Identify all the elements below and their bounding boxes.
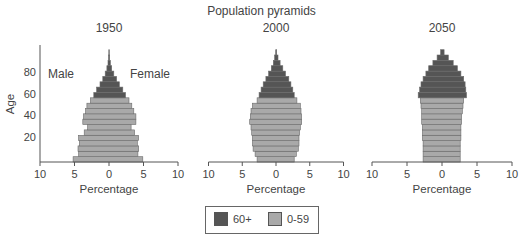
pyramid-bar-40-44 <box>84 114 136 119</box>
pyramid-bar-25-29 <box>422 130 461 135</box>
pyramid-bar-85-89 <box>271 66 283 71</box>
x-axis-label: Percentage <box>413 183 472 195</box>
y-tick-label: 60 <box>24 88 36 100</box>
pyramid-bar-50-54 <box>252 103 300 108</box>
pyramid-bar-15-19 <box>79 141 137 146</box>
x-axis-label: Percentage <box>80 183 139 195</box>
pyramid-bar-45-49 <box>86 109 134 114</box>
pyramid-bar-80-84 <box>269 71 286 76</box>
pyramid-bar-30-34 <box>422 125 461 130</box>
pyramid-bar-20-24 <box>252 135 299 140</box>
pyramid-bar-90-94 <box>273 60 280 65</box>
pyramid-bar-60-64 <box>94 93 126 98</box>
pyramid-bar-5-9 <box>255 151 296 156</box>
x-tick-label: 5 <box>474 168 480 180</box>
pyramid-bar-5-9 <box>423 151 460 156</box>
pyramid-bar-5-9 <box>79 151 138 156</box>
pyramid-bar-50-54 <box>421 103 463 108</box>
y-tick-label: 40 <box>24 109 36 121</box>
pyramid-bar-0-4 <box>257 157 294 162</box>
x-tick-label: 0 <box>106 168 112 180</box>
pyramid-bar-85-89 <box>429 66 458 71</box>
pyramid-bar-65-69 <box>420 87 466 92</box>
pyramid-bar-100+ <box>441 50 445 55</box>
pyramid-bar-75-79 <box>423 76 464 81</box>
pyramid-bar-20-24 <box>79 135 139 140</box>
pyramid-bar-95-99 <box>275 55 278 60</box>
pyramid-bar-90-94 <box>108 60 110 65</box>
pyramid-bar-25-29 <box>252 130 300 135</box>
pyramid-bar-55-59 <box>90 98 129 103</box>
pyramid-bar-35-39 <box>83 119 136 124</box>
pyramid-bar-100+ <box>109 50 110 55</box>
x-tick-label: 5 <box>307 168 313 180</box>
pyramid-bar-55-59 <box>420 98 463 103</box>
x-tick-label: 10 <box>172 168 184 180</box>
pyramid-bar-10-14 <box>253 146 298 151</box>
pyramid-bar-95-99 <box>109 55 110 60</box>
x-tick-label: 0 <box>273 168 279 180</box>
pyramid-bar-50-54 <box>87 103 132 108</box>
pyramid-bar-20-24 <box>422 135 461 140</box>
pyramid-bar-90-94 <box>433 60 453 65</box>
pyramid-bar-0-4 <box>423 157 460 162</box>
legend: 60+ 0-59 <box>205 206 319 234</box>
pyramid-year-2050: 2050 <box>429 21 456 35</box>
pyramid-bar-10-14 <box>78 146 139 151</box>
pyramid-bar-30-34 <box>88 125 132 130</box>
legend-swatch-60plus <box>214 212 228 226</box>
pyramid-year-2000: 2000 <box>263 21 290 35</box>
pyramid-bar-75-79 <box>266 76 289 81</box>
x-tick-label: 0 <box>439 168 445 180</box>
x-tick-label: 10 <box>34 168 46 180</box>
pyramid-bar-15-19 <box>252 141 299 146</box>
pyramid-bar-45-49 <box>422 109 463 114</box>
pyramid-bar-55-59 <box>257 98 297 103</box>
x-tick-label: 5 <box>71 168 77 180</box>
pyramid-bar-0-4 <box>73 157 143 162</box>
x-axis-label: Percentage <box>247 183 306 195</box>
pyramid-bar-65-69 <box>97 87 123 92</box>
legend-label-0-59: 0-59 <box>287 213 309 225</box>
x-tick-label: 5 <box>239 168 245 180</box>
pyramid-bar-40-44 <box>250 114 301 119</box>
x-tick-label: 10 <box>506 168 518 180</box>
x-tick-label: 5 <box>404 168 410 180</box>
legend-label-60plus: 60+ <box>233 213 252 225</box>
pyramid-bar-15-19 <box>423 141 460 146</box>
pyramid-bar-60-64 <box>259 93 294 98</box>
pyramid-year-1950: 1950 <box>96 21 123 35</box>
male-label: Male <box>48 67 74 81</box>
x-tick-label: 10 <box>337 168 349 180</box>
legend-swatch-0-59 <box>268 212 282 226</box>
legend-item-0-59: 0-59 <box>268 212 309 226</box>
pyramid-bar-80-84 <box>426 71 461 76</box>
pyramid-bar-25-29 <box>84 130 134 135</box>
pyramid-bar-65-69 <box>261 87 293 92</box>
x-tick-label: 10 <box>202 168 214 180</box>
x-tick-label: 10 <box>366 168 378 180</box>
y-tick-label: 20 <box>24 131 36 143</box>
pyramid-bar-95-99 <box>437 55 448 60</box>
pyramid-bar-70-74 <box>263 82 291 87</box>
pyramid-bar-75-79 <box>103 76 117 81</box>
pyramid-bar-35-39 <box>250 119 302 124</box>
y-axis-label: Age <box>4 94 16 114</box>
pyramid-bar-40-44 <box>422 114 462 119</box>
y-tick-label: 80 <box>24 66 36 78</box>
pyramid-bar-35-39 <box>422 119 462 124</box>
x-tick-label: 5 <box>140 168 146 180</box>
pyramid-bar-60-64 <box>418 93 466 98</box>
pyramid-bar-80-84 <box>105 71 114 76</box>
pyramid-bar-45-49 <box>251 109 301 114</box>
pyramid-bar-70-74 <box>421 82 465 87</box>
pyramid-bar-100+ <box>276 50 277 55</box>
pyramid-bar-10-14 <box>423 146 460 151</box>
pyramid-bar-85-89 <box>107 66 112 71</box>
pyramid-bar-70-74 <box>100 82 119 87</box>
pyramid-bar-30-34 <box>251 125 300 130</box>
female-label: Female <box>130 67 170 81</box>
legend-item-60plus: 60+ <box>214 212 252 226</box>
